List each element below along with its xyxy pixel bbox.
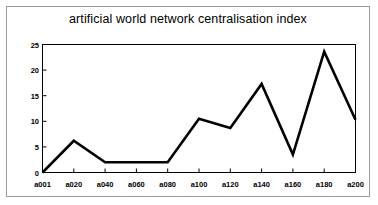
x-axis-tick-label: a001 bbox=[34, 180, 51, 189]
plot-frame bbox=[43, 45, 356, 173]
y-axis-tick-labels: 0510152025 bbox=[21, 44, 39, 173]
line-chart-svg bbox=[42, 44, 356, 173]
x-axis-tick-label: a200 bbox=[347, 180, 364, 189]
x-axis-tick-label: a020 bbox=[65, 180, 82, 189]
chart-figure: artificial world network centralisation … bbox=[6, 6, 370, 197]
x-axis-tick-label: a080 bbox=[159, 180, 176, 189]
y-axis-tick-label: 5 bbox=[35, 142, 39, 151]
x-axis-tick-label: a100 bbox=[191, 180, 208, 189]
x-axis-tick-label: a160 bbox=[285, 180, 302, 189]
y-axis-tick-label: 0 bbox=[35, 168, 39, 177]
y-axis-tick-label: 20 bbox=[31, 66, 39, 75]
x-axis-tick-labels: a001a020a040a060a080a100a120a140a160a180… bbox=[42, 180, 356, 194]
x-axis-tick-label: a120 bbox=[222, 180, 239, 189]
x-axis-tick-label: a180 bbox=[316, 180, 333, 189]
chart-title: artificial world network centralisation … bbox=[7, 12, 369, 26]
y-axis-tick-label: 15 bbox=[31, 91, 39, 100]
x-axis-tick-label: a060 bbox=[128, 180, 145, 189]
plot-area bbox=[42, 44, 356, 173]
x-axis-tick-label: a040 bbox=[97, 180, 114, 189]
y-axis-tick-label: 25 bbox=[31, 40, 39, 49]
x-axis-tick-label: a140 bbox=[253, 180, 270, 189]
y-axis-tick-label: 10 bbox=[31, 117, 39, 126]
